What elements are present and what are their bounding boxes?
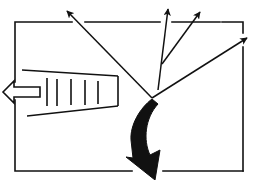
diagram-canvas [0,0,254,180]
arrow-right [152,38,247,98]
arrow-up-left [67,11,152,98]
container-box [15,22,243,171]
diagram: line-art schematic [0,0,254,180]
curved-down-arrow-icon [126,99,160,180]
hatch-lines [47,78,98,106]
arrow-up-right [162,12,200,64]
hollow-left-arrow-icon [3,81,40,103]
arrow-up [158,9,168,90]
